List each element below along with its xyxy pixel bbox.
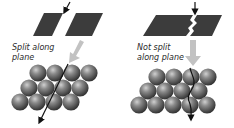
grey-arrow: [185, 40, 201, 66]
atom-sphere: [29, 64, 46, 81]
plate-right: [190, 15, 222, 36]
grey-arrow: [69, 40, 84, 63]
atom-sphere: [28, 93, 45, 110]
plate-right: [65, 13, 103, 36]
atom-sphere: [80, 64, 97, 81]
sphere-lattice: [130, 68, 216, 113]
cleavage-diagram: [0, 0, 234, 128]
sphere-lattice: [11, 64, 97, 110]
atom-sphere: [198, 96, 215, 113]
label-line: plane: [12, 53, 54, 63]
atom-sphere: [147, 96, 164, 113]
atom-sphere: [62, 93, 79, 110]
label-line: Not split: [137, 43, 184, 53]
atom-sphere: [130, 96, 147, 113]
label-line: Split along: [12, 43, 54, 53]
impact-arrow: [65, 2, 70, 11]
atom-sphere: [164, 96, 181, 113]
panel-label-not-split: Not split along plane: [137, 43, 184, 63]
plate-left: [33, 13, 63, 36]
atom-sphere: [11, 93, 28, 110]
plate-left: [143, 15, 193, 36]
panel-label-split: Split along plane: [12, 43, 54, 63]
atom-sphere: [45, 93, 62, 110]
label-line: along plane: [137, 53, 184, 63]
